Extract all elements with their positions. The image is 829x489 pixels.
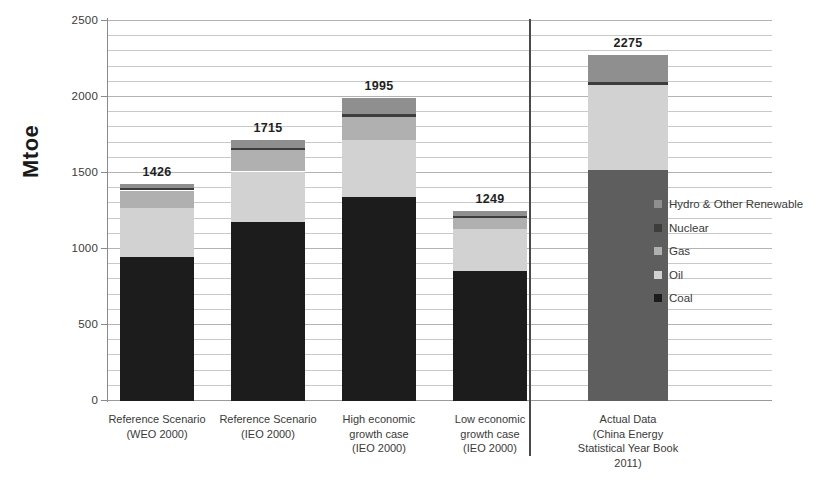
y-axis-tick-label: 0 xyxy=(38,394,98,406)
bar-total-label: 1426 xyxy=(97,165,217,179)
stacked-bar-chart: Mtoe 05001000150020002500 14261715199512… xyxy=(0,0,829,489)
bar-segment-hydro-other-renewable[interactable] xyxy=(231,140,305,148)
y-axis-tick-label: 2000 xyxy=(38,90,98,102)
bar-segment-hydro-other-renewable[interactable] xyxy=(453,211,527,216)
legend-item[interactable]: Gas xyxy=(654,245,803,257)
legend-swatch-icon xyxy=(654,224,662,232)
legend-swatch-icon xyxy=(654,247,662,255)
legend-item[interactable]: Oil xyxy=(654,269,803,281)
category-label-line: 2011) xyxy=(553,456,703,471)
chart-legend: Hydro & Other RenewableNuclearGasOilCoal xyxy=(654,198,803,316)
bar-total-label: 1249 xyxy=(430,192,550,206)
projection-actual-separator xyxy=(529,19,531,456)
bar-segment-gas[interactable] xyxy=(120,191,194,208)
legend-swatch-icon xyxy=(654,294,662,302)
bar-segment-oil[interactable] xyxy=(588,85,668,170)
category-label-line: (IEO 2000) xyxy=(423,441,557,456)
y-axis-tick-label: 1000 xyxy=(38,242,98,254)
bar-segment-oil[interactable] xyxy=(453,229,527,271)
bar-total-label: 1995 xyxy=(319,79,439,93)
bar-segment-gas[interactable] xyxy=(231,150,305,171)
bar-segment-oil[interactable] xyxy=(231,172,305,223)
bar-segment-hydro-other-renewable[interactable] xyxy=(588,55,668,82)
legend-swatch-icon xyxy=(654,271,662,279)
category-label-line: Statistical Year Book xyxy=(553,441,703,456)
bar-segment-oil[interactable] xyxy=(120,208,194,257)
category-label-line: Actual Data xyxy=(553,412,703,427)
bar-total-label: 1715 xyxy=(208,121,328,135)
bar-segment-nuclear[interactable] xyxy=(231,148,305,150)
bar-segment-coal[interactable] xyxy=(120,257,194,401)
bar-group[interactable]: 1715 xyxy=(231,140,305,401)
legend-label: Oil xyxy=(669,269,683,281)
bar-segment-gas[interactable] xyxy=(453,218,527,229)
legend-swatch-icon xyxy=(654,200,662,208)
legend-label: Hydro & Other Renewable xyxy=(669,198,803,210)
legend-item[interactable]: Nuclear xyxy=(654,222,803,234)
bar-segment-oil[interactable] xyxy=(342,140,416,197)
bar-segment-coal[interactable] xyxy=(231,222,305,401)
legend-item[interactable]: Coal xyxy=(654,292,803,304)
category-label: Actual Data(China EnergyStatistical Year… xyxy=(553,412,703,470)
bar-segment-gas[interactable] xyxy=(342,117,416,140)
bar-segment-nuclear[interactable] xyxy=(342,114,416,117)
y-axis-tick-label: 500 xyxy=(38,318,98,330)
bar-segment-coal[interactable] xyxy=(453,271,527,401)
legend-label: Gas xyxy=(669,245,690,257)
category-label: Low economicgrowth case(IEO 2000) xyxy=(423,412,557,456)
category-label-line: (China Energy xyxy=(553,427,703,442)
bar-segment-nuclear[interactable] xyxy=(588,82,668,85)
category-label-line: growth case xyxy=(423,427,557,442)
bar-group[interactable]: 1426 xyxy=(120,184,194,401)
legend-label: Coal xyxy=(669,292,693,304)
bar-total-label: 2275 xyxy=(568,36,688,50)
bar-segment-nuclear[interactable] xyxy=(120,188,194,190)
bar-segment-hydro-other-renewable[interactable] xyxy=(120,184,194,188)
bar-group[interactable]: 1249 xyxy=(453,211,527,401)
legend-label: Nuclear xyxy=(669,222,709,234)
bar-segment-hydro-other-renewable[interactable] xyxy=(342,98,416,114)
category-label-line: Low economic xyxy=(423,412,557,427)
y-axis-tick-label: 2500 xyxy=(38,14,98,26)
bar-segment-nuclear[interactable] xyxy=(453,216,527,218)
bar-segment-coal[interactable] xyxy=(342,197,416,401)
bar-group[interactable]: 1995 xyxy=(342,98,416,401)
legend-item[interactable]: Hydro & Other Renewable xyxy=(654,198,803,210)
y-axis-tick-label: 1500 xyxy=(38,166,98,178)
